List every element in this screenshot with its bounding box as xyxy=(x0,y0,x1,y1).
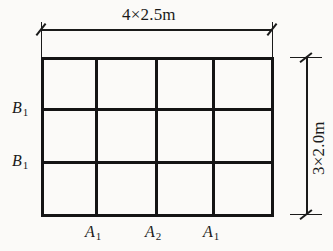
beam-label-bottom-1-sub: 2 xyxy=(156,230,162,242)
grid-hline-2 xyxy=(41,161,274,164)
right-dimension-label: 3×2.0m xyxy=(310,121,327,175)
beam-label-bottom-2-sub: 1 xyxy=(214,230,220,242)
beam-label-left-0: B1 xyxy=(12,100,27,116)
beam-label-left-1: B1 xyxy=(12,153,27,169)
beam-label-bottom-0: A1 xyxy=(85,224,100,240)
beam-label-bottom-2-name: A xyxy=(203,223,213,240)
grid-vline-4 xyxy=(271,57,274,217)
grid-hline-3 xyxy=(41,214,274,217)
grid-vline-1 xyxy=(95,57,98,217)
beam-label-left-0-name: B xyxy=(12,99,22,116)
grid-hline-1 xyxy=(41,108,274,111)
right-dimension-line xyxy=(306,57,308,214)
beam-label-left-1-sub: 1 xyxy=(23,159,29,171)
grid-vline-0 xyxy=(41,57,44,217)
beam-label-bottom-1-name: A xyxy=(145,223,155,240)
beam-label-bottom-1: A2 xyxy=(145,224,160,240)
beam-label-bottom-0-name: A xyxy=(85,223,95,240)
drawing-canvas: 4×2.5m 3×2.0m B1 B1 A1 A2 A1 xyxy=(0,0,333,251)
top-dimension-line xyxy=(41,29,273,31)
grid-vline-2 xyxy=(155,57,158,217)
beam-label-bottom-0-sub: 1 xyxy=(96,230,102,242)
beam-label-left-0-sub: 1 xyxy=(23,106,29,118)
beam-label-bottom-2: A1 xyxy=(203,224,218,240)
beam-label-left-1-name: B xyxy=(12,152,22,169)
top-dimension-label: 4×2.5m xyxy=(122,6,176,23)
grid-hline-0 xyxy=(41,57,274,60)
grid-vline-3 xyxy=(212,57,215,217)
